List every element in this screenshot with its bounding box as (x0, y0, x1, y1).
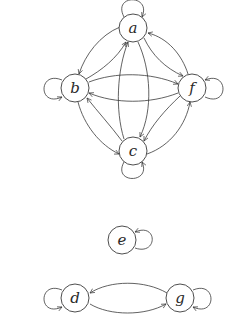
node-a-label: a (129, 19, 138, 37)
edge-c-b (87, 98, 122, 141)
edge-f-b (89, 93, 178, 101)
edge-c-f (147, 102, 190, 154)
node-f: f (178, 74, 206, 102)
graph-diagram: a b f c e d g (0, 0, 243, 325)
node-b: b (61, 74, 89, 102)
node-d-label: d (70, 289, 80, 307)
edge-b-c (78, 102, 119, 154)
edge-d-d (44, 288, 62, 309)
node-a: a (119, 14, 147, 42)
node-d: d (61, 284, 89, 312)
node-e: e (108, 226, 136, 254)
edge-d-g (90, 304, 166, 313)
edge-a-f (144, 38, 183, 76)
node-b-label: b (70, 79, 80, 97)
edge-b-f (89, 75, 178, 84)
node-g: g (166, 284, 194, 312)
node-c: c (119, 137, 147, 165)
edge-g-g (193, 288, 211, 309)
edge-c-a (118, 42, 128, 139)
edge-g-d (90, 283, 167, 293)
node-c-label: c (129, 142, 138, 160)
edge-f-f (205, 78, 223, 99)
edge-e-e (135, 230, 152, 249)
node-g-label: g (175, 289, 185, 307)
edge-a-b (79, 27, 120, 74)
edge-b-b (44, 78, 62, 99)
edge-a-c (138, 42, 149, 137)
node-e-label: e (118, 231, 127, 249)
